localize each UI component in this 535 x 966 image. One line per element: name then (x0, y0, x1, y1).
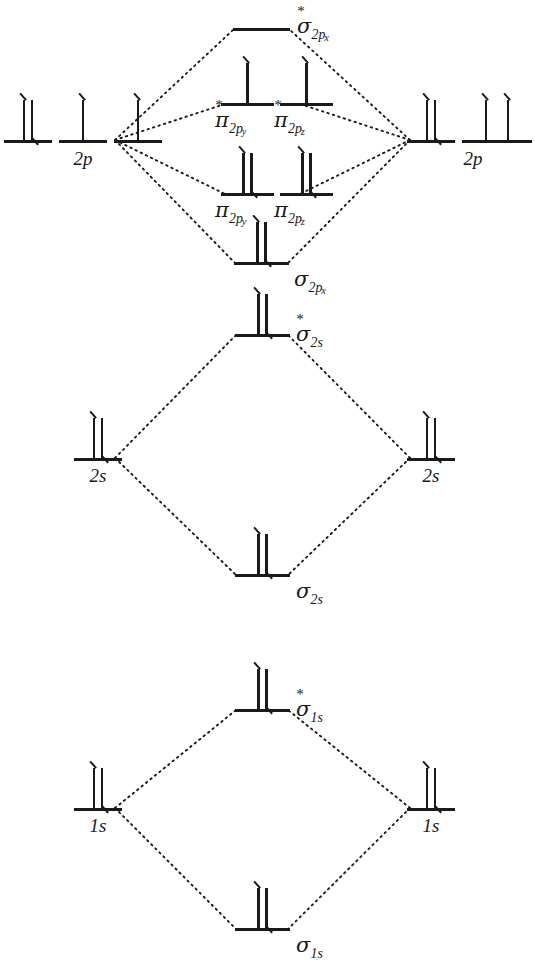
electron-pair-sigma-2s-antibonding (235, 292, 290, 334)
mo-level-sigma-2s-antibonding (235, 334, 290, 337)
electron-arrow-down (259, 532, 274, 574)
electron-pair-right-2s (407, 416, 455, 458)
ao-level-right-2p-3 (490, 140, 532, 143)
electron-pair-sigma-1s-antibonding (235, 667, 290, 709)
asterisk: * (297, 4, 305, 19)
asterisk: * (296, 312, 304, 327)
ao-label-left-2s: 2s (68, 466, 128, 485)
mo-label-sigma-1s-bonding: σ1s (296, 935, 323, 956)
electron-single-pi-2py-antibonding (221, 61, 274, 103)
mo-label-pi-2py-bonding: π2py (215, 200, 247, 221)
subscript: 2s (311, 335, 323, 350)
electron-single-left-2p-2 (59, 98, 107, 140)
sigma-symbol: σ (296, 579, 310, 603)
subscript: 1s (311, 946, 323, 961)
electron-arrow-down (428, 766, 443, 808)
electron-single-right-2p-3 (487, 98, 529, 140)
mo-label-sigma-1s-antibonding: σ* 1s (296, 699, 323, 720)
electron-pair-left-2p-1 (4, 98, 52, 140)
ao-level-right-2s (407, 458, 455, 461)
subscript: 2p (288, 211, 302, 226)
ao-level-left-2p-1 (4, 140, 52, 143)
electron-arrow-down (303, 151, 318, 193)
subsubscript: z (301, 216, 305, 227)
electron-pair-right-2p-1 (407, 98, 455, 140)
ao-level-left-2s (74, 458, 122, 461)
electron-single-left-2p-3 (114, 98, 162, 140)
electron-pair-sigma-2px-bonding (234, 220, 289, 262)
mo-label-sigma-2px-bonding: σ2px (294, 269, 327, 290)
mo-label-sigma-2s-bonding: σ2s (296, 581, 323, 602)
mo-label-pi-2py-antibonding: π* 2py (215, 110, 247, 131)
electron-arrow-up (76, 98, 91, 140)
asterisk: * (274, 98, 282, 113)
asterisk: * (215, 98, 223, 113)
mo-level-sigma-1s-bonding (235, 928, 290, 931)
electron-arrow-down (428, 98, 443, 140)
electron-single-pi-2pz-antibonding (280, 61, 333, 103)
electron-arrow-down (428, 416, 443, 458)
ao-level-right-2p-1 (407, 140, 455, 143)
sigma-symbol: σ (294, 267, 308, 291)
electron-arrow-down (25, 98, 40, 140)
electron-pair-pi-2pz-bonding (280, 151, 333, 193)
mo-level-pi-2pz-antibonding (280, 103, 333, 106)
ao-level-left-1s (74, 808, 122, 811)
electron-arrow-down (95, 416, 110, 458)
electron-arrow-down (258, 220, 273, 262)
electron-arrow-down (244, 151, 259, 193)
mo-level-pi-2py-bonding (221, 193, 274, 196)
mo-level-pi-2pz-bonding (280, 193, 333, 196)
asterisk: * (296, 687, 304, 702)
mo-label-pi-2pz-antibonding: π* 2pz (274, 110, 306, 131)
electron-pair-sigma-2s-bonding (235, 532, 290, 574)
electron-arrow-down (259, 292, 274, 334)
ao-label-right-2p: 2p (443, 149, 503, 168)
subscript: 2p (229, 121, 243, 136)
mo-energy-diagram: 2p 2p σ* 2px π* 2py π* 2pz (0, 0, 535, 966)
sigma-symbol: σ (296, 933, 310, 957)
subsubscript: x (321, 285, 326, 296)
electron-arrow-down (259, 886, 274, 928)
mo-level-sigma-2px-bonding (234, 262, 289, 265)
mo-label-sigma-2s-antibonding: σ* 2s (296, 324, 323, 345)
mo-level-sigma-2px-antibonding (233, 28, 290, 31)
subscript: 2s (311, 592, 323, 607)
ao-label-left-1s: 1s (68, 816, 128, 835)
electron-pair-right-1s (407, 766, 455, 808)
mo-label-sigma-2px-antibonding: σ* 2px (297, 16, 330, 37)
mo-level-sigma-1s-antibonding (235, 709, 290, 712)
mo-level-pi-2py-antibonding (221, 103, 274, 106)
electron-arrow-down (95, 766, 110, 808)
subsubscript: z (301, 126, 305, 137)
ao-level-left-2p-2 (59, 140, 107, 143)
ao-label-left-2p: 2p (53, 149, 113, 168)
subscript: 2p (288, 121, 302, 136)
electron-arrow-up (299, 61, 314, 103)
subsubscript: x (324, 32, 329, 43)
electron-arrow-up (501, 98, 516, 140)
electron-arrow-up (131, 98, 146, 140)
mo-label-pi-2pz-bonding: π2pz (274, 200, 306, 221)
electron-pair-left-1s (74, 766, 122, 808)
mo-level-sigma-2s-bonding (235, 574, 290, 577)
ao-level-right-1s (407, 808, 455, 811)
electron-arrow-up (240, 61, 255, 103)
subscript: 1s (311, 710, 323, 725)
subsubscript: y (242, 126, 247, 137)
ao-level-left-2p-3 (114, 140, 162, 143)
electron-arrow-down (259, 667, 274, 709)
electron-pair-left-2s (74, 416, 122, 458)
electron-pair-pi-2py-bonding (221, 151, 274, 193)
pi-symbol: π (215, 198, 229, 222)
ao-label-right-1s: 1s (401, 816, 461, 835)
ao-label-right-2s: 2s (401, 466, 461, 485)
pi-symbol: π (274, 198, 288, 222)
electron-pair-sigma-1s-bonding (235, 886, 290, 928)
